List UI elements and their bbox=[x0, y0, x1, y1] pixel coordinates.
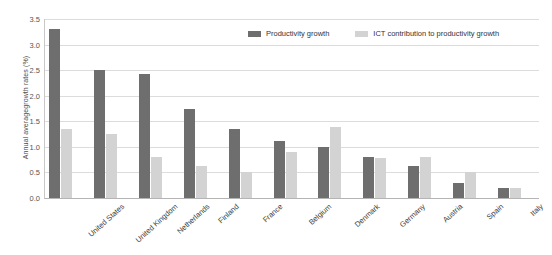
bar bbox=[139, 74, 150, 198]
x-tick-label: Finland bbox=[216, 202, 240, 225]
bar bbox=[229, 129, 240, 198]
bar bbox=[465, 172, 476, 198]
bar bbox=[184, 109, 195, 199]
legend-swatch-icon bbox=[355, 31, 368, 37]
x-tick-label: Italy bbox=[528, 202, 544, 218]
y-tick-label: 3.5 bbox=[14, 15, 40, 24]
x-tick-label: United Kingdom bbox=[134, 202, 180, 244]
bar-group bbox=[314, 19, 359, 198]
y-tick-label: 1.0 bbox=[14, 143, 40, 152]
bar-group bbox=[404, 19, 449, 198]
y-tick-label: 0.5 bbox=[14, 168, 40, 177]
y-tick-label: 3.0 bbox=[14, 41, 40, 50]
bar bbox=[94, 70, 105, 198]
bars-layer bbox=[45, 19, 539, 198]
bar-group bbox=[225, 19, 270, 198]
bar bbox=[274, 141, 285, 198]
bar bbox=[286, 152, 297, 198]
x-tick-label: Denmark bbox=[353, 202, 382, 229]
x-tick-label: Netherlands bbox=[176, 202, 212, 236]
bar-group bbox=[135, 19, 180, 198]
bar bbox=[241, 172, 252, 198]
bar-chart-figure: Annual averagegrowth rates (%) 0.00.51.0… bbox=[0, 0, 552, 255]
bar bbox=[510, 188, 521, 198]
bar bbox=[375, 158, 386, 198]
x-tick-label: France bbox=[261, 202, 284, 224]
bar bbox=[408, 166, 419, 198]
plot-area bbox=[44, 19, 539, 199]
y-tick-label: 2.0 bbox=[14, 92, 40, 101]
bar-group bbox=[449, 19, 494, 198]
x-tick-label: Germany bbox=[398, 202, 427, 229]
bar bbox=[330, 127, 341, 198]
bar bbox=[453, 183, 464, 198]
y-tick-label: 2.5 bbox=[14, 66, 40, 75]
legend-swatch-icon bbox=[248, 31, 261, 37]
bar bbox=[61, 129, 72, 198]
bar-group bbox=[494, 19, 539, 198]
chart-legend: Productivity growthICT contribution to p… bbox=[248, 29, 499, 38]
x-tick-label: United States bbox=[87, 202, 126, 239]
bar bbox=[420, 157, 431, 198]
bar bbox=[318, 147, 329, 198]
y-tick-label: 1.5 bbox=[14, 117, 40, 126]
bar-group bbox=[359, 19, 404, 198]
bar bbox=[196, 166, 207, 198]
x-tick-label: Austria bbox=[441, 202, 464, 224]
legend-label: ICT contribution to productivity growth bbox=[373, 29, 499, 38]
x-tick-label: Spain bbox=[485, 202, 505, 222]
bar bbox=[363, 157, 374, 198]
bar-group bbox=[90, 19, 135, 198]
bar bbox=[498, 188, 509, 198]
y-tick-label: 0.0 bbox=[14, 194, 40, 203]
bar-group bbox=[45, 19, 90, 198]
legend-entry: ICT contribution to productivity growth bbox=[355, 29, 499, 38]
bar-group bbox=[180, 19, 225, 198]
bar bbox=[106, 134, 117, 198]
legend-entry: Productivity growth bbox=[248, 29, 329, 38]
bar-group bbox=[270, 19, 315, 198]
legend-label: Productivity growth bbox=[266, 29, 329, 38]
bar bbox=[151, 157, 162, 198]
bar bbox=[49, 29, 60, 198]
x-tick-label: Belgium bbox=[307, 202, 333, 227]
